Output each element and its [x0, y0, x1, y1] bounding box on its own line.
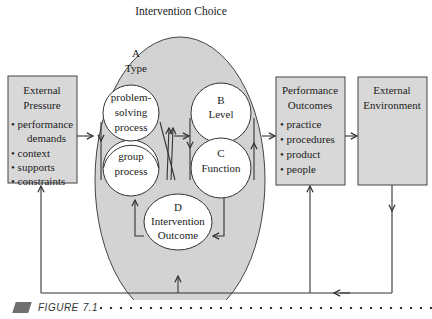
external-pressure-item: demands: [27, 132, 66, 144]
level-letter: B: [217, 94, 224, 106]
type-label: Type: [125, 62, 147, 74]
caption-mark-icon: [12, 302, 32, 313]
performance-outcomes-item: • people: [280, 163, 316, 175]
function-label: Function: [201, 162, 241, 174]
caption-label: Figure: [38, 302, 79, 313]
performance-outcomes-item: • product: [280, 148, 320, 160]
external-pressure-title2: Pressure: [23, 99, 60, 111]
figure-caption: Figure 7.1: [14, 300, 98, 314]
level-label: Level: [208, 108, 233, 120]
external-pressure-item: • supports: [11, 161, 55, 173]
problem-solving-line1: problem-: [111, 91, 152, 103]
problem-solving-line3: process: [115, 121, 148, 133]
outcome-letter: D: [174, 201, 182, 213]
external-pressure-item: • context: [11, 147, 50, 159]
group-line2: process: [115, 165, 148, 177]
outcome-line1: Intervention: [151, 215, 205, 227]
performance-outcomes-title2: Outcomes: [288, 99, 333, 111]
group-line1: group: [118, 150, 144, 162]
external-pressure-title1: External: [23, 84, 60, 96]
external-environment-title1: External: [373, 84, 410, 96]
performance-outcomes-item: • procedures: [280, 133, 335, 145]
external-pressure-item: • performance: [11, 118, 73, 130]
outcome-line2: Outcome: [158, 229, 198, 241]
diagram-title: Intervention Choice: [135, 5, 227, 17]
caption-dotted-rule: [96, 306, 432, 310]
type-letter: A: [132, 47, 140, 59]
external-pressure-item: • constraints: [11, 175, 65, 187]
external-environment-title2: Environment: [363, 99, 420, 111]
intervention-choice-diagram: Intervention Choice A Type problem- solv…: [0, 0, 432, 300]
performance-outcomes-title1: Performance: [282, 84, 338, 96]
function-letter: C: [217, 147, 224, 159]
problem-solving-line2: solving: [115, 106, 148, 118]
performance-outcomes-item: • practice: [280, 118, 322, 130]
